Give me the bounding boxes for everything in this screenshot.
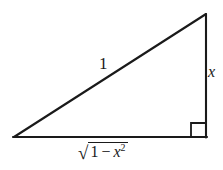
radicand-exponent: 2 (121, 142, 126, 153)
right-angle-marker-icon (191, 123, 205, 137)
hypotenuse-line (14, 14, 206, 137)
radicand-expression: 1−x2 (88, 142, 127, 160)
adjacent-side-label: √ 1−x2 (78, 142, 128, 161)
radicand-minus-sign: − (98, 143, 113, 160)
right-triangle-figure: 1 x √ 1−x2 (0, 0, 223, 170)
hypotenuse-label: 1 (99, 55, 108, 72)
radicand-variable: x (113, 143, 120, 160)
radical-sign-icon: √ (78, 143, 88, 162)
opposite-side-label: x (208, 64, 215, 80)
